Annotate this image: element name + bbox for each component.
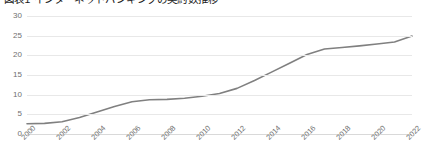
y-axis-label: 15 (0, 71, 22, 79)
gridline-20 (27, 55, 412, 56)
y-axis-label: 5 (0, 110, 22, 118)
chart-title: 図表1 インターネットバンキングの契約数推移 (4, 0, 218, 5)
gridline-25 (27, 36, 412, 37)
y-axis-label: 10 (0, 91, 22, 99)
gridline-0 (27, 134, 412, 135)
gridline-30 (27, 16, 412, 17)
y-axis-label: 25 (0, 32, 22, 40)
gridline-5 (27, 114, 412, 115)
plot-area (27, 16, 412, 134)
gridline-10 (27, 95, 412, 96)
y-axis-label: 30 (0, 12, 22, 20)
y-axis-label: 20 (0, 51, 22, 59)
gridline-15 (27, 75, 412, 76)
